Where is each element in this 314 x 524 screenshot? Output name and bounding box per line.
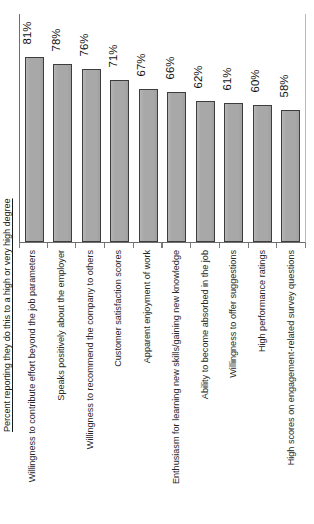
bar[interactable]: 62% xyxy=(196,101,215,242)
bar-slot: 60% xyxy=(248,14,277,242)
axis-tick xyxy=(249,243,278,249)
bar-value-label: 67% xyxy=(135,54,147,77)
axis-tick xyxy=(19,243,48,249)
category-label: Enthusiasm for learning new skills/gaini… xyxy=(171,250,182,518)
bar-value-label: 58% xyxy=(278,74,290,97)
category-slot: Customer satisfaction scores xyxy=(105,250,134,522)
category-slot: High scores on engagement-related survey… xyxy=(277,250,306,522)
bar-value-label: 60% xyxy=(249,70,261,93)
axis-tick xyxy=(105,243,134,249)
axis-tick xyxy=(163,243,192,249)
category-label: Willingness to recommend the company to … xyxy=(85,250,96,518)
bar-value-label: 66% xyxy=(164,56,176,79)
bar[interactable]: 66% xyxy=(167,92,186,242)
y-axis-title: Percent reporting they do this to a high… xyxy=(2,0,13,434)
category-label: Ability to become absorbed in the job xyxy=(200,250,211,518)
bar[interactable]: 71% xyxy=(110,80,129,242)
category-slot: Enthusiasm for learning new skills/gaini… xyxy=(163,250,192,522)
category-label: Willingness to offer suggestions xyxy=(229,250,240,518)
bar-slot: 78% xyxy=(49,14,78,242)
category-slot: Apparent enjoyment of work xyxy=(134,250,163,522)
category-slot: High performance ratings xyxy=(249,250,278,522)
category-slot: Speaks positively about the employer xyxy=(48,250,77,522)
category-label: High scores on engagement-related survey… xyxy=(286,250,297,518)
bars-container: 81% 78% 76% 71% 67% xyxy=(20,14,305,242)
bar-value-label: 62% xyxy=(192,65,204,88)
bar-value-label: 81% xyxy=(21,22,33,45)
category-slot: Willingness to recommend the company to … xyxy=(76,250,105,522)
y-axis-title-container: Percent reporting they do this to a high… xyxy=(0,0,17,440)
bar-value-label: 76% xyxy=(78,33,90,56)
axis-tick xyxy=(48,243,77,249)
bar-slot: 58% xyxy=(277,14,306,242)
bar[interactable]: 81% xyxy=(25,57,44,242)
bar-value-label: 78% xyxy=(50,29,62,52)
axis-tick xyxy=(76,243,105,249)
axis-tick xyxy=(277,243,306,249)
bar[interactable]: 61% xyxy=(224,103,243,242)
category-label: Customer satisfaction scores xyxy=(114,250,125,518)
bar-slot: 71% xyxy=(106,14,135,242)
category-label: Apparent enjoyment of work xyxy=(143,250,154,518)
bar[interactable]: 58% xyxy=(281,110,300,242)
bar[interactable]: 76% xyxy=(82,69,101,242)
category-slot: Willingness to offer suggestions xyxy=(220,250,249,522)
axis-tick xyxy=(191,243,220,249)
bar-chart: Percent reporting they do this to a high… xyxy=(0,0,314,524)
bar-slot: 81% xyxy=(20,14,49,242)
bar[interactable]: 67% xyxy=(139,89,158,242)
x-axis-category-labels: Willingness to contribute effort beyond … xyxy=(19,250,306,522)
bar-slot: 61% xyxy=(220,14,249,242)
bar-slot: 76% xyxy=(77,14,106,242)
category-label: Willingness to contribute effort beyond … xyxy=(28,250,39,518)
bar-value-label: 71% xyxy=(107,45,119,68)
bar-slot: 62% xyxy=(191,14,220,242)
bar-value-label: 61% xyxy=(221,68,233,91)
axis-tick xyxy=(134,243,163,249)
bar[interactable]: 78% xyxy=(53,64,72,242)
bar[interactable]: 60% xyxy=(253,105,272,242)
plot-area: 81% 78% 76% 71% 67% xyxy=(19,14,306,243)
x-axis-ticks xyxy=(19,243,306,249)
bar-slot: 67% xyxy=(134,14,163,242)
category-slot: Ability to become absorbed in the job xyxy=(191,250,220,522)
bar-slot: 66% xyxy=(163,14,192,242)
category-slot: Willingness to contribute effort beyond … xyxy=(19,250,48,522)
axis-tick xyxy=(220,243,249,249)
category-label: Speaks positively about the employer xyxy=(56,250,67,518)
category-label: High performance ratings xyxy=(257,250,268,518)
